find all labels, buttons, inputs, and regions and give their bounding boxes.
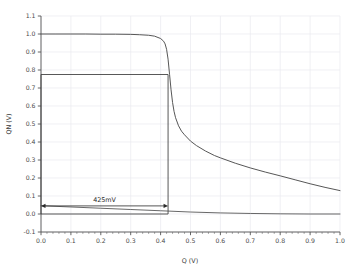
figure-background <box>0 0 364 271</box>
y-tick-label: 1.1 <box>26 12 36 19</box>
x-tick-label: 0.2 <box>96 237 106 244</box>
y-tick-label: 0.7 <box>26 84 36 91</box>
x-tick-label: 0.7 <box>245 237 255 244</box>
y-tick-label: 0.3 <box>26 156 36 163</box>
x-tick-label: 0.8 <box>275 237 285 244</box>
x-axis-title: Q (V) <box>182 257 198 265</box>
x-tick-label: 0.6 <box>215 237 225 244</box>
x-tick-label: 0.1 <box>66 237 76 244</box>
y-axis-title: QN (V) <box>5 113 13 134</box>
x-tick-label: 1.0 <box>335 237 345 244</box>
y-tick-label: 0.0 <box>26 210 36 217</box>
x-tick-label: 0.9 <box>305 237 315 244</box>
y-tick-label: 0.1 <box>26 192 36 199</box>
y-tick-label: 0.9 <box>26 48 36 55</box>
chart-figure: 0.00.10.20.30.40.50.60.70.80.91.0 1.11.0… <box>0 0 364 271</box>
annotation-label: 425mV <box>93 196 116 204</box>
y-tick-label: 1.0 <box>26 30 36 37</box>
x-tick-label: 0.0 <box>36 237 46 244</box>
inverter-vtc-plot: 0.00.10.20.30.40.50.60.70.80.91.0 1.11.0… <box>0 0 364 271</box>
y-tick-label: 0.4 <box>26 138 36 145</box>
y-tick-label: 0.2 <box>26 174 36 181</box>
y-tick-label: -0.1 <box>23 228 35 235</box>
y-tick-label: 0.6 <box>26 102 36 109</box>
x-tick-label: 0.4 <box>156 237 166 244</box>
y-tick-label: 0.8 <box>26 66 36 73</box>
y-tick-label: 0.5 <box>26 120 36 127</box>
x-tick-label: 0.3 <box>126 237 136 244</box>
x-tick-label: 0.5 <box>186 237 196 244</box>
